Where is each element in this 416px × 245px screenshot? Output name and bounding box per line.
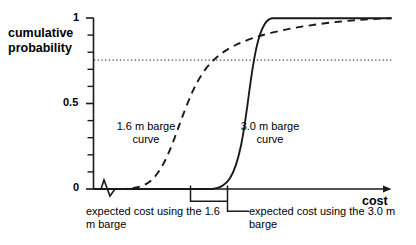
y-axis-title: cumulative probability [8, 26, 90, 56]
y-tick-label-0: 0 [73, 181, 79, 194]
curve-label-1-6m-barge: 1.6 m barge curve [108, 120, 184, 146]
chart-figure: cumulative probability cost 1 0.5 0 1.6 … [0, 0, 416, 245]
annotation-expected-cost-3-0m: expected cost using the 3.0 m barge [249, 205, 401, 231]
y-tick-label-1: 1 [73, 11, 79, 24]
x-axis-arrowhead [383, 185, 392, 192]
curve-3-0m-barge [94, 18, 392, 189]
curve-1-6m-barge [94, 18, 392, 189]
annotation-expected-cost-1-6m: expected cost using the 1.6 m barge [86, 205, 228, 231]
curve-label-3-0m-barge: 3.0 m barge curve [232, 120, 308, 146]
y-tick-label-0-5: 0.5 [63, 96, 78, 109]
